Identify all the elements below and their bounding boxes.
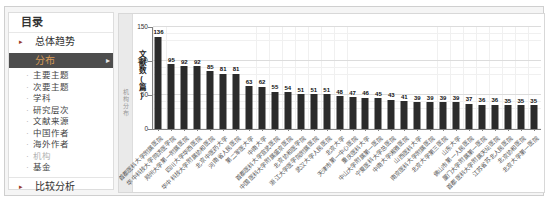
bar-slot: 35江苏省苏北人民医院 [501,27,514,129]
sidebar-sub-item[interactable]: ·学科 [9,93,113,105]
triangle-bullet-icon: ▸ [19,178,23,196]
bar-slot: 39南京医科大学附属医院 [424,27,437,129]
chevron-right-icon: ▸ [106,53,110,68]
bar [194,66,201,129]
bar-slot: 35北京协和医院 [514,27,527,129]
bar-slot: 36首都医科大学附属天坛医院 [488,27,501,129]
sidebar: 目录 ▸ 总体趋势 分布 ▸ ·主要主题·次要主题·学科·研究层次·文献来源·中… [8,12,114,190]
bar-value-label: 43 [388,92,395,98]
bar [504,105,511,129]
bar-value-label: 39 [427,95,434,101]
sidebar-sub-item[interactable]: ·海外作者 [9,139,113,151]
sidebar-sub-item-label: 学科 [33,93,51,103]
bar-slot: 51北京协和医学院 [294,27,307,129]
sidebar-sub-item-label: 研究层次 [33,105,69,115]
bar-slot: 92郑州大学第一附属医院 [178,27,191,129]
bar-value-label: 54 [285,85,292,91]
sidebar-sub-item-label: 基金 [33,162,51,172]
bar-value-label: 39 [440,95,447,101]
y-tick-mark [148,129,152,130]
sidebar-item-compare-analysis[interactable]: ▸ 比较分析 [9,178,113,196]
sidebar-sub-item-label: 海外作者 [33,139,69,149]
sidebar-sub-item[interactable]: ·主要主题 [9,70,113,82]
bar-slot: 81北京中医药大学 [217,27,230,129]
bar-slot: 63第二军医大学 [243,27,256,129]
bar-value-label: 45 [375,91,382,97]
bar-value-label: 51 [297,87,304,93]
bar-slot: 85华中科技大学附属协和医院 [204,27,217,129]
dot-bullet-icon: · [26,105,29,117]
bar [427,102,434,129]
bar-value-label: 81 [233,66,240,72]
bar-value-label: 39 [414,95,421,101]
sidebar-item-overall-trend[interactable]: ▸ 总体趋势 [9,33,113,51]
bar [465,104,472,129]
sidebar-sub-item-label: 中国作者 [33,128,69,138]
y-tick-label: 50 [130,91,148,99]
active-item-label: 分布 [35,55,55,66]
sidebar-sub-item[interactable]: ·机构 [9,151,113,163]
y-tick-label: 100 [130,57,148,65]
bar [375,98,382,129]
bar [323,94,330,129]
sidebar-sub-item[interactable]: ·中国作者 [9,128,113,140]
bar-value-label: 62 [259,79,266,85]
bar-slot: 43宁夏医科大学总医院 [385,27,398,129]
dot-bullet-icon: · [26,93,29,105]
sidebar-item-distribution-active[interactable]: 分布 ▸ [9,53,113,68]
dot-bullet-icon: · [26,70,29,82]
bar [181,66,188,129]
bar-slot: 51浙江大学医学院附属医院 [307,27,320,129]
triangle-bullet-icon: ▸ [19,33,23,51]
sidebar-title: 目录 [9,13,113,33]
dot-bullet-icon: · [26,162,29,174]
bar-slot: 35北京大学第一医院 [527,27,540,129]
bar [362,98,369,129]
sidebar-sub-item[interactable]: ·文献来源 [9,116,113,128]
chart-panel: 机构分布 文献数(篇) 050100150 136首都医科大学附属医院95华中科… [118,13,545,193]
sidebar-sub-item[interactable]: ·基金 [9,162,113,174]
y-tick-label: 0 [130,125,148,133]
bar [517,105,524,129]
bar-value-label: 36 [492,97,499,103]
panel-side-label: 机构分布 [121,89,130,117]
bar-value-label: 37 [466,96,473,102]
dot-bullet-icon: · [26,139,29,151]
bar-slot: 46重庆医科大学 [359,27,372,129]
sidebar-sub-item-label: 机构 [33,151,51,161]
bar-slot: 54中国医科大学附属盛京医院 [281,27,294,129]
bar-value-label: 48 [336,89,343,95]
bar-value-label: 36 [479,97,486,103]
bar [453,102,460,129]
bar-value-label: 95 [168,57,175,63]
sidebar-sub-item-label: 主要主题 [33,70,69,80]
sidebar-sub-item[interactable]: ·研究层次 [9,105,113,117]
bar-slot: 39山西医科大学 [411,27,424,129]
sidebar-sub-items: ·主要主题·次要主题·学科·研究层次·文献来源·中国作者·海外作者·机构·基金 [9,70,113,174]
dot-bullet-icon: · [26,116,29,128]
bar-value-label: 136 [153,29,163,35]
bar-slot: 39山东大学 [450,27,463,129]
bar-value-label: 46 [362,90,369,96]
bar [168,64,175,129]
sidebar-section-label: 比较分析 [35,181,75,192]
bar-slot: 45中山大学附属第一医院 [372,27,385,129]
bar [246,86,253,129]
bar-value-label: 35 [504,98,511,104]
bar [220,74,227,129]
bar-slot: 41中南大学湘雅医院 [398,27,411,129]
bar [207,71,214,129]
sidebar-sub-item[interactable]: ·次要主题 [9,82,113,94]
bar [530,105,537,129]
bar [414,102,421,129]
bar [478,105,485,129]
dot-bullet-icon: · [26,151,29,163]
bar-value-label: 55 [272,84,279,90]
y-tick-label: 150 [130,23,148,31]
bar-value-label: 51 [310,87,317,93]
bar [271,92,278,129]
bar-value-label: 81 [220,66,227,72]
bar-value-label: 41 [401,94,408,100]
bar [388,100,395,129]
bar-value-label: 85 [207,64,214,70]
